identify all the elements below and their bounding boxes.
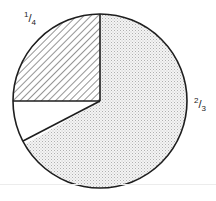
label-denominator: 4: [32, 18, 36, 27]
label-numerator: 2: [194, 96, 198, 105]
slice-one-quarter: [13, 14, 100, 101]
pie-chart: [0, 0, 216, 201]
label-numerator: 1: [24, 10, 28, 19]
label-denominator: 3: [202, 104, 206, 113]
label-one-quarter: 1/4: [24, 11, 36, 27]
label-two-thirds: 2/3: [194, 97, 206, 113]
scan-artifact-line: [0, 184, 216, 185]
